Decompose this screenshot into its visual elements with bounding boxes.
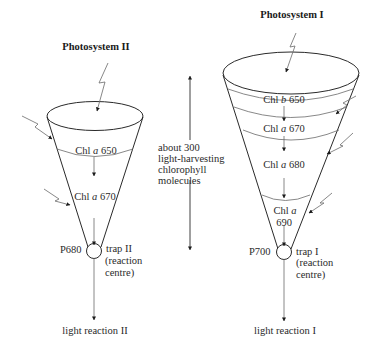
circle-trap-icon (277, 245, 292, 260)
psii-layer-chl-a-650: Chl a 650 (75, 146, 116, 157)
psi-layer-chl-b-650: Chl b 650 (263, 95, 304, 106)
psii-layer-chl-a-670: Chl a 670 (74, 192, 115, 203)
light-reaction-i-label: light reaction I (254, 326, 316, 337)
trap-ii-label-line2: (reaction (105, 256, 142, 267)
photosystem-diagram: Photosystem II Chl a 650 Chl a 670 P680 … (0, 0, 372, 360)
trap-ii-label-line1: trap II (106, 244, 132, 255)
lightning-arrow-icon (327, 133, 353, 154)
lightning-arrow-icon (336, 96, 356, 114)
photosystem-i-cone (223, 33, 359, 321)
layer-wavelength: 680 (286, 159, 304, 170)
lightning-arrow-icon (44, 189, 70, 205)
layer-wavelength: 670 (286, 123, 304, 134)
trap-i-label-line2: (reaction (296, 258, 333, 269)
layer-chl-type: a (291, 205, 296, 216)
trap-ii-label-line3: centre) (105, 268, 134, 279)
annotation-line1: about 300 (158, 143, 200, 154)
annotation-line2: light-harvesting (158, 154, 225, 165)
layer-prefix: Chl (74, 191, 92, 202)
layer-prefix: Chl (263, 159, 281, 170)
trap-i-label-line1: trap I (296, 247, 318, 258)
layer-wavelength: 670 (97, 191, 115, 202)
p700-label: P700 (249, 247, 271, 258)
light-reaction-ii-label: light reaction II (62, 326, 127, 337)
layer-prefix: Chl (75, 145, 93, 156)
photosystem-ii-title: Photosystem II (62, 42, 129, 53)
layer-wavelength: 650 (286, 94, 304, 105)
psi-layer-chl-a-690: Chl a (273, 206, 296, 217)
psi-layer-690-value: 690 (276, 218, 292, 229)
layer-prefix: Chl (273, 205, 291, 216)
annotation-line3: chlorophyll (158, 165, 206, 176)
layer-prefix: Chl (263, 94, 281, 105)
photosystem-i-title: Photosystem I (260, 10, 323, 21)
p680-label: P680 (60, 245, 82, 256)
annotation-line4: molecules (158, 176, 201, 187)
layer-prefix: Chl (263, 123, 281, 134)
lightning-arrow-icon (309, 193, 332, 213)
layer-wavelength: 650 (98, 145, 116, 156)
psi-layer-chl-a-680: Chl a 680 (263, 160, 304, 171)
circle-trap-icon (87, 244, 102, 259)
psi-layer-chl-a-670: Chl a 670 (263, 124, 304, 135)
trap-i-label-line3: centre) (296, 270, 325, 281)
lightning-arrow-icon (97, 63, 108, 111)
